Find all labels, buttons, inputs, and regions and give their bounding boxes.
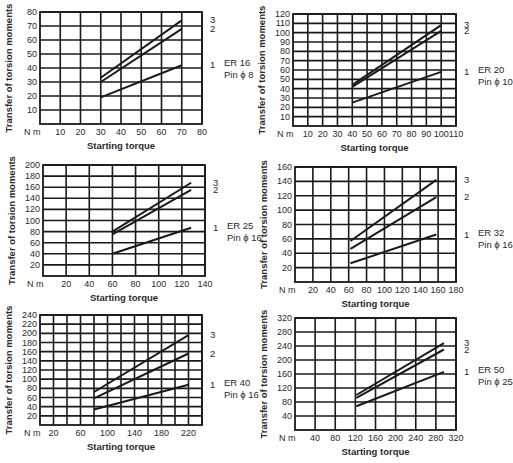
y-tick-label: 60 [27, 393, 37, 403]
grid [43, 165, 205, 276]
x-axis-label: Starting torque [87, 441, 155, 452]
x-tick-label: 100 [377, 285, 392, 295]
x-tick-label: 30 [332, 129, 342, 139]
x-tick-label: 40 [84, 279, 94, 289]
unit-label: N m [277, 129, 294, 139]
x-tick-label: 20 [308, 285, 318, 295]
y-tick-label: 120 [22, 365, 37, 375]
unit-label: N m [27, 279, 44, 289]
y-tick-label: 40 [27, 402, 37, 412]
x-tick-label: 200 [388, 433, 403, 443]
y-tick-label: 120 [25, 204, 40, 214]
x-tick-label: 40 [326, 285, 336, 295]
model-label: ER 50 [478, 364, 504, 375]
x-tick-label: 40 [116, 127, 126, 137]
x-tick-label: 100 [100, 428, 115, 438]
pin-label: Pin ϕ 25 [478, 376, 513, 387]
unit-label: N m [24, 428, 41, 438]
x-tick-label: 140 [413, 285, 428, 295]
y-tick-label: 70 [27, 21, 37, 31]
x-tick-label: 70 [392, 129, 402, 139]
x-tick-label: 60 [107, 279, 117, 289]
series-label: 3 [464, 174, 469, 185]
series-label: 2 [210, 23, 215, 34]
x-tick-label: 60 [377, 129, 387, 139]
y-tick-label: 60 [30, 238, 40, 248]
pin-label: Pin ϕ 10 [478, 76, 513, 87]
y-tick-label: 160 [25, 182, 40, 192]
pin-label: Pin ϕ 8 [224, 69, 254, 80]
series-line-2 [350, 197, 436, 249]
x-tick-label: 80 [407, 129, 417, 139]
y-tick-label: 240 [22, 310, 37, 320]
y-tick-label: 40 [30, 249, 40, 259]
x-tick-label: 140 [197, 279, 212, 289]
y-tick-label: 20 [280, 102, 290, 112]
figure-torque-charts: 10203040506070801020304050607080N mStart… [0, 0, 513, 463]
x-tick-label: 50 [362, 129, 372, 139]
x-tick-label: 10 [303, 129, 313, 139]
y-tick-label: 100 [275, 28, 290, 38]
x-tick-label: 30 [96, 127, 106, 137]
y-tick-label: 80 [282, 220, 292, 230]
y-tick-label: 240 [277, 341, 292, 351]
x-tick-label: 160 [431, 285, 446, 295]
y-tick-label: 20 [27, 411, 37, 421]
series-label: 1 [210, 59, 215, 70]
chart-er-50: 4080120160200240280320408012016020024028… [258, 310, 513, 457]
x-tick-label: 10 [55, 127, 65, 137]
series-label: 2 [464, 344, 469, 355]
y-tick-label: 60 [27, 35, 37, 45]
y-tick-label: 60 [282, 234, 292, 244]
pin-label: Pin ϕ 16 [224, 389, 259, 400]
x-tick-label: 240 [408, 433, 423, 443]
y-axis-label: Transfer of torsion moments [256, 6, 267, 135]
x-tick-label: 20 [61, 279, 71, 289]
unit-label: N m [279, 433, 296, 443]
y-tick-label: 200 [25, 160, 40, 170]
y-tick-label: 160 [22, 347, 37, 357]
y-tick-label: 200 [277, 355, 292, 365]
y-axis-label: Transfer of torsion moments [258, 310, 269, 439]
x-tick-label: 120 [348, 433, 363, 443]
x-axis-label: Starting torque [340, 142, 408, 153]
x-tick-label: 60 [344, 285, 354, 295]
x-tick-label: 40 [347, 129, 357, 139]
y-tick-label: 80 [30, 227, 40, 237]
unit-label: N m [279, 285, 296, 295]
y-tick-label: 80 [280, 46, 290, 56]
grid [295, 318, 456, 430]
y-tick-label: 80 [27, 7, 37, 17]
x-axis-label: Starting torque [341, 446, 409, 457]
series-label: 1 [213, 222, 218, 233]
x-tick-label: 80 [362, 285, 372, 295]
series-label: 2 [464, 25, 469, 36]
series-line-1 [356, 372, 444, 406]
y-tick-label: 180 [25, 171, 40, 181]
x-tick-label: 100 [434, 129, 449, 139]
x-tick-label: 120 [395, 285, 410, 295]
series-label: 1 [464, 66, 469, 77]
x-tick-label: 180 [448, 285, 463, 295]
y-tick-label: 20 [30, 260, 40, 270]
chart-er-40: 2040608010012014016018020022024020601001… [3, 306, 259, 452]
x-tick-label: 60 [75, 428, 85, 438]
x-tick-label: 140 [127, 428, 142, 438]
x-tick-label: 20 [48, 428, 58, 438]
y-tick-label: 160 [277, 162, 292, 172]
y-tick-label: 100 [277, 205, 292, 215]
y-axis-label: Transfer of torsion moments [258, 160, 269, 289]
x-tick-label: 160 [368, 433, 383, 443]
series-label: 2 [210, 348, 215, 359]
y-tick-label: 120 [277, 191, 292, 201]
y-tick-label: 80 [27, 383, 37, 393]
x-tick-label: 90 [421, 129, 431, 139]
model-label: ER 16 [224, 57, 250, 68]
y-tick-label: 30 [280, 93, 290, 103]
series-label: 1 [464, 366, 469, 377]
y-tick-label: 160 [277, 369, 292, 379]
x-tick-label: 50 [136, 127, 146, 137]
y-tick-label: 50 [27, 49, 37, 59]
pin-label: Pin ϕ 16 [478, 239, 513, 250]
x-tick-label: 320 [448, 433, 463, 443]
